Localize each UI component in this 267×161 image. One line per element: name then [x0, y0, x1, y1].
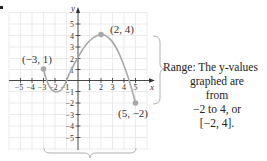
- svg-text:4: 4: [122, 83, 126, 92]
- svg-text:−5: −5: [15, 83, 24, 92]
- point-5-neg2: [133, 100, 139, 106]
- svg-text:−4: −4: [26, 83, 35, 92]
- range-line-1: Range: The y-values: [163, 60, 267, 74]
- svg-text:−3: −3: [38, 83, 47, 92]
- range-line-4: −2 to 4, or: [167, 102, 267, 116]
- y-axis-label: y: [70, 3, 75, 13]
- svg-text:−3: −3: [65, 111, 74, 120]
- svg-text:5: 5: [70, 20, 74, 29]
- svg-text:5: 5: [134, 83, 138, 92]
- svg-text:−4: −4: [65, 122, 74, 131]
- point-label-neg3-1: (−3, 1): [22, 53, 52, 66]
- svg-text:−1: −1: [65, 88, 74, 97]
- range-line-2: graphed are: [167, 74, 267, 88]
- x-axis-label: x: [149, 82, 154, 92]
- svg-text:3: 3: [70, 43, 74, 52]
- svg-text:2: 2: [99, 83, 103, 92]
- y-axis-arrow-icon: [76, 7, 80, 13]
- range-annotation: Range: The y-values graphed are from −2 …: [167, 60, 267, 130]
- svg-text:2: 2: [70, 55, 74, 64]
- x-tick-labels: −5 −4 −3 −2 −1 1 2 3 4 5: [15, 83, 138, 92]
- svg-text:1: 1: [88, 83, 92, 92]
- point-label-2-4: (2, 4): [110, 23, 134, 36]
- point-neg3-1: [41, 66, 47, 72]
- svg-text:−5: −5: [65, 134, 74, 143]
- svg-text:−2: −2: [65, 99, 74, 108]
- domain-brace: [44, 148, 136, 158]
- range-line-5: [−2, 4].: [167, 116, 267, 130]
- point-label-5-neg2: (5, −2): [118, 107, 148, 120]
- svg-text:4: 4: [70, 32, 74, 41]
- range-line-3: from: [167, 88, 267, 102]
- point-2-4: [98, 32, 104, 38]
- svg-text:3: 3: [111, 83, 115, 92]
